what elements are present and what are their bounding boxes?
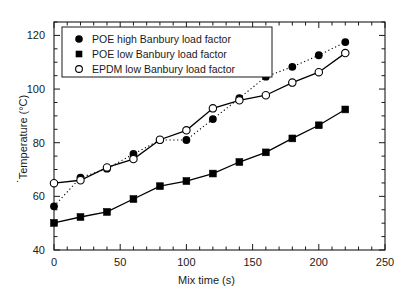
data-point-filled-square: [183, 178, 190, 185]
data-point-open-circle: [77, 177, 84, 184]
data-point-filled-square: [104, 209, 111, 216]
y-tick-label: 120: [27, 29, 45, 41]
legend-marker-open-circle: [76, 66, 83, 73]
legend-label: POE low Banbury load factor: [92, 48, 227, 60]
data-point-open-circle: [103, 164, 110, 171]
y-tick-label: 60: [33, 190, 45, 202]
x-tick-label: 250: [376, 256, 394, 268]
data-point-filled-square: [289, 135, 296, 142]
y-axis-title: Temperature (°C): [17, 95, 29, 179]
legend-marker-filled-circle: [75, 35, 83, 43]
x-tick-label: 150: [243, 256, 261, 268]
legend-label: POE high Banbury load factor: [92, 33, 231, 45]
series-line-filled-square: [54, 109, 345, 222]
temperature-vs-mix-time-chart: 050100150200250406080100120POE high Banb…: [0, 0, 413, 296]
data-point-open-circle: [315, 68, 322, 75]
data-point-filled-square: [77, 214, 84, 221]
data-point-open-circle: [262, 92, 269, 99]
data-point-filled-circle: [50, 202, 58, 210]
data-point-filled-square: [262, 149, 269, 156]
data-point-filled-square: [157, 183, 164, 190]
y-tick-label: 80: [33, 137, 45, 149]
x-tick-label: 50: [114, 256, 126, 268]
data-point-filled-circle: [288, 63, 296, 71]
data-point-open-circle: [209, 105, 216, 112]
data-point-filled-circle: [209, 115, 217, 123]
data-point-filled-square: [342, 106, 349, 113]
data-point-filled-square: [209, 170, 216, 177]
x-axis-title: Mix time (s): [0, 274, 413, 286]
data-point-open-circle: [50, 180, 57, 187]
x-tick-label: 200: [310, 256, 328, 268]
data-point-filled-circle: [315, 51, 323, 59]
legend-label: EPDM low Banbury load factor: [92, 63, 235, 75]
data-point-open-circle: [342, 49, 349, 56]
data-point-open-circle: [130, 155, 137, 162]
data-point-filled-square: [51, 220, 58, 227]
data-point-filled-circle: [341, 38, 349, 46]
chart-figure: 050100150200250406080100120POE high Banb…: [0, 0, 413, 296]
data-point-filled-square: [130, 196, 137, 203]
data-point-filled-square: [236, 159, 243, 166]
data-point-open-circle: [236, 97, 243, 104]
stray-dot-artifact: .: [16, 172, 19, 184]
data-point-open-circle: [156, 136, 163, 143]
data-point-filled-circle: [183, 136, 191, 144]
data-point-open-circle: [289, 79, 296, 86]
y-axis-title-wrapper: Temperature (°C): [13, 57, 31, 217]
x-tick-label: 100: [177, 256, 195, 268]
legend-marker-filled-square: [76, 51, 83, 58]
y-tick-label: 40: [33, 244, 45, 256]
data-point-open-circle: [183, 127, 190, 134]
data-point-filled-square: [315, 122, 322, 129]
x-tick-label: 0: [51, 256, 57, 268]
